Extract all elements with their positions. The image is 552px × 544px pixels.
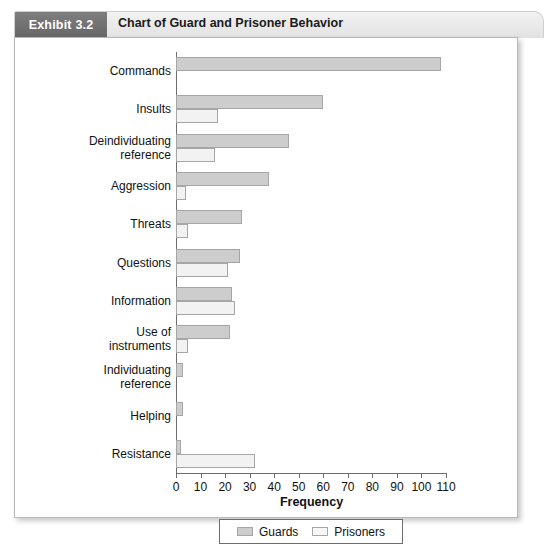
legend-label-guards: Guards [259, 525, 298, 539]
x-tick [348, 473, 349, 478]
legend-swatch-guards [237, 527, 253, 536]
x-tick [372, 473, 373, 478]
bar-guards-individuating-reference [176, 363, 183, 377]
chart-legend: GuardsPrisoners [219, 519, 403, 544]
x-tick [323, 473, 324, 478]
bar-prisoners-aggression [176, 186, 186, 200]
bar-prisoners-deindividuating-reference [176, 148, 215, 162]
category-label-helping: Helping [21, 409, 171, 423]
bar-prisoners-questions [176, 263, 228, 277]
x-tick [421, 473, 422, 478]
x-tick [250, 473, 251, 478]
exhibit-number-badge: Exhibit 3.2 [15, 12, 107, 37]
x-tick-label: 110 [429, 480, 463, 494]
bar-prisoners-use-of-instruments [176, 339, 188, 353]
bar-prisoners-insults [176, 109, 218, 123]
category-label-questions: Questions [21, 256, 171, 270]
legend-item-guards: Guards [237, 525, 298, 539]
category-label-resistance: Resistance [21, 447, 171, 461]
plot-area [176, 52, 446, 473]
bar-prisoners-information [176, 301, 235, 315]
bar-guards-deindividuating-reference [176, 134, 289, 148]
bar-guards-resistance [176, 440, 181, 454]
x-tick [274, 473, 275, 478]
bar-prisoners-resistance [176, 454, 255, 468]
x-axis-title: Frequency [176, 495, 447, 509]
x-tick [446, 473, 447, 478]
x-axis-line: 0102030405060708090100110 [176, 473, 447, 474]
bar-guards-information [176, 287, 232, 301]
category-label-aggression: Aggression [21, 179, 171, 193]
bar-guards-helping [176, 402, 183, 416]
category-label-individuating-reference: Individuatingreference [21, 363, 171, 391]
x-tick [299, 473, 300, 478]
category-label-commands: Commands [21, 64, 171, 78]
x-tick [176, 473, 177, 478]
bar-prisoners-threats [176, 224, 188, 238]
bar-guards-threats [176, 210, 242, 224]
bar-guards-commands [176, 57, 441, 71]
legend-label-prisoners: Prisoners [334, 525, 385, 539]
category-label-threats: Threats [21, 217, 171, 231]
category-label-insults: Insults [21, 102, 171, 116]
x-tick [225, 473, 226, 478]
legend-swatch-prisoners [312, 527, 328, 536]
bar-guards-questions [176, 249, 240, 263]
chart-panel: CommandsInsultsDeindividuatingreferenceA… [14, 37, 518, 518]
exhibit-title: Chart of Guard and Prisoner Behavior [118, 16, 343, 30]
x-tick [201, 473, 202, 478]
exhibit-header-bar: Exhibit 3.2 Chart of Guard and Prisoner … [14, 11, 544, 38]
y-axis-category-labels: CommandsInsultsDeindividuatingreferenceA… [15, 52, 171, 473]
bar-guards-use-of-instruments [176, 325, 230, 339]
legend-item-prisoners: Prisoners [312, 525, 385, 539]
bar-guards-aggression [176, 172, 269, 186]
bar-guards-insults [176, 95, 323, 109]
x-tick [397, 473, 398, 478]
category-label-information: Information [21, 294, 171, 308]
category-label-deindividuating-reference: Deindividuatingreference [21, 134, 171, 162]
category-label-use-of-instruments: Use ofinstruments [21, 325, 171, 353]
